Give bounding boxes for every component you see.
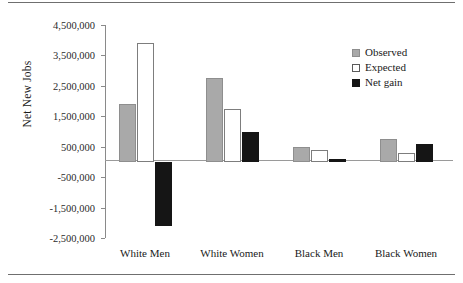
bar-netgain[interactable] [155,162,172,226]
bar-observed[interactable] [293,147,310,162]
legend-swatch-netgain [352,79,360,87]
y-tick-label: 500,000 [61,141,95,152]
y-tick: 1,500,000 [101,116,105,117]
bar-netgain[interactable] [329,159,346,162]
legend-label: Net gain [365,75,403,90]
y-tick-label: 1,500,000 [53,111,95,122]
y-tick: -2,500,000 [101,238,105,239]
legend-label: Expected [365,60,406,75]
legend-swatch-observed [352,49,360,57]
x-axis-label: Black Women [375,247,437,259]
legend-item[interactable]: Net gain [352,75,407,90]
bar-netgain[interactable] [242,132,259,162]
y-tick-label: 2,500,000 [53,80,95,91]
bar-expected[interactable] [398,153,415,162]
y-tick: 4,500,000 [101,25,105,26]
x-axis-label: White Women [200,247,263,259]
bar-observed[interactable] [119,104,136,162]
y-axis-title: Net New Jobs [21,34,33,154]
bar-expected[interactable] [224,109,241,162]
y-tick: -1,500,000 [101,208,105,209]
y-axis-line [105,25,106,238]
y-tick-label: 4,500,000 [53,20,95,31]
y-tick: 500,000 [101,147,105,148]
x-axis-label: Black Men [295,247,344,259]
legend-item[interactable]: Observed [352,45,407,60]
y-tick: -500,000 [101,177,105,178]
legend-item[interactable]: Expected [352,60,407,75]
bar-observed[interactable] [380,139,397,162]
top-divider-rule [8,2,455,3]
chart-figure: Net New Jobs 4,500,0003,500,0002,500,000… [0,0,463,283]
bar-netgain[interactable] [416,144,433,162]
bottom-divider-rule [8,274,455,275]
y-tick-label: -2,500,000 [50,233,96,244]
legend-swatch-expected [352,64,360,72]
bar-expected[interactable] [311,150,328,162]
y-tick: 2,500,000 [101,86,105,87]
legend-label: Observed [365,45,407,60]
y-tick-label: -1,500,000 [50,202,96,213]
bar-observed[interactable] [206,78,223,162]
y-tick-label: -500,000 [57,172,95,183]
y-tick: 3,500,000 [101,55,105,56]
chart-legend: ObservedExpectedNet gain [352,45,407,90]
bar-expected[interactable] [137,43,154,162]
y-tick-label: 3,500,000 [53,50,95,61]
x-axis-label: White Men [120,247,170,259]
